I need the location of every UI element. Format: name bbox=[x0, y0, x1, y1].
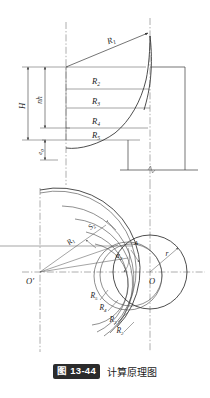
label-O-prime: O′ bbox=[26, 276, 34, 286]
label-R4-lower: R4 bbox=[98, 303, 107, 313]
leader-R2-lower bbox=[124, 322, 134, 332]
label-O: O bbox=[149, 276, 155, 286]
figure-caption-row: 图 13-44 计算原理图 bbox=[0, 358, 210, 384]
label-R2-lower: R2 bbox=[115, 326, 124, 336]
label-R2-upper: R2 bbox=[91, 76, 100, 87]
tick-arrow-arc-mid bbox=[86, 240, 96, 248]
figure-container: H nh e0 R1 R2 R3 R4 bbox=[0, 0, 210, 398]
leader-R4-lower bbox=[108, 300, 118, 311]
label-R4-upper: R4 bbox=[91, 116, 100, 127]
label-e: e0 bbox=[36, 149, 45, 155]
radial-line-aux bbox=[40, 258, 128, 272]
label-A: A bbox=[133, 239, 138, 246]
tick-arrow-arc-upper bbox=[108, 222, 116, 230]
svg-text:e0: e0 bbox=[36, 149, 45, 155]
upper-elevation-group: H nh e0 R1 R2 R3 R4 bbox=[17, 18, 198, 185]
figure-caption-title: 计算原理图 bbox=[107, 364, 157, 379]
svg-text:R1: R1 bbox=[105, 34, 117, 47]
label-r: r bbox=[166, 249, 169, 258]
figure-number-badge: 图 13-44 bbox=[53, 364, 100, 379]
label-R5-lower: R5 bbox=[89, 291, 98, 301]
label-R3-upper: R3 bbox=[91, 96, 100, 107]
profile-curve-outer bbox=[66, 36, 150, 148]
label-nh: nh bbox=[35, 96, 44, 104]
arc-R1 bbox=[40, 188, 140, 327]
leader-R5-lower bbox=[100, 290, 108, 300]
svg-text:S2: S2 bbox=[86, 220, 97, 232]
label-R1-upper: R1 bbox=[105, 34, 117, 47]
label-R5-upper: R5 bbox=[91, 130, 100, 141]
label-alpha2: α2 bbox=[116, 251, 123, 261]
radius-r-line bbox=[150, 248, 178, 272]
break-symbol bbox=[148, 166, 155, 173]
label-H: H bbox=[17, 102, 27, 110]
technical-drawing: H nh e0 R1 R2 R3 R4 bbox=[0, 0, 210, 398]
svg-text:H: H bbox=[17, 102, 27, 110]
lower-plan-group: O′ O R1 S2 α2 A r bbox=[0, 182, 205, 352]
radial-line-S2 bbox=[40, 245, 118, 272]
label-S2: S2 bbox=[86, 220, 97, 232]
label-R3-lower: R3 bbox=[108, 315, 117, 325]
arc-R5 bbox=[92, 244, 128, 325]
svg-text:nh: nh bbox=[35, 96, 44, 104]
